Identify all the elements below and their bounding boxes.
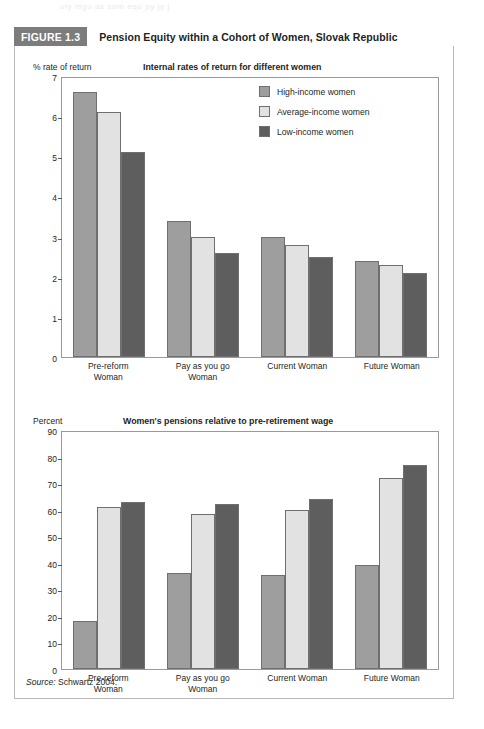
chart-1-ytick: 10	[27, 639, 62, 649]
bar-group	[62, 432, 156, 669]
chart-1-ytick: 20	[27, 613, 62, 623]
bar[interactable]	[121, 502, 145, 669]
figure-source: Source: Schwartz 2004.	[26, 677, 117, 687]
chart-1-ytick: 40	[27, 560, 62, 570]
chart-1-plot-area: 0102030405060708090	[61, 431, 439, 670]
x-axis-category-label: Pay as you goWoman	[156, 673, 251, 695]
chart-1-bar-groups	[62, 432, 438, 669]
bar-group	[250, 432, 344, 669]
chart-1-ytick: 80	[27, 454, 62, 464]
figure-header: FIGURE 1.3 Pension Equity within a Cohor…	[14, 27, 454, 46]
figure-body: % rate of return Internal rates of retur…	[14, 46, 454, 699]
bar[interactable]	[261, 575, 285, 669]
figure-number-tag: FIGURE 1.3	[14, 27, 87, 46]
chart-1-title: Women's pensions relative to pre-retirem…	[123, 416, 333, 426]
bar[interactable]	[403, 465, 427, 669]
bar[interactable]	[191, 514, 215, 669]
x-axis-category-label: Current Woman	[250, 673, 345, 695]
bar[interactable]	[355, 565, 379, 669]
chart-1-ytick: 70	[27, 480, 62, 490]
figure-title: Pension Equity within a Cohort of Women,…	[87, 27, 397, 46]
bar[interactable]	[379, 478, 403, 669]
bar[interactable]	[167, 573, 191, 669]
bar[interactable]	[215, 504, 239, 669]
bar[interactable]	[97, 507, 121, 669]
bar[interactable]	[73, 621, 97, 669]
chart-1-ytick: 90	[27, 427, 62, 437]
figure-container: FIGURE 1.3 Pension Equity within a Cohor…	[14, 27, 454, 699]
bar[interactable]	[309, 499, 333, 669]
source-value: Schwartz 2004.	[56, 677, 118, 687]
chart-1-ytick: 50	[27, 533, 62, 543]
x-axis-category-label: Future Woman	[345, 673, 440, 695]
bar-group	[344, 432, 438, 669]
chart-panel-pensions-relative: Percent Women's pensions relative to pre…	[15, 46, 453, 699]
chart-1-ytick: 0	[27, 666, 62, 676]
chart-1-y-axis-label: Percent	[33, 416, 62, 426]
bar[interactable]	[285, 510, 309, 669]
chart-1-ytick: 60	[27, 507, 62, 517]
bar-group	[156, 432, 250, 669]
source-label: Source:	[26, 677, 56, 687]
chart-1-x-axis-labels: Pre-reformWomanPay as you goWomanCurrent…	[61, 673, 439, 695]
chart-1-ytick: 30	[27, 586, 62, 596]
page-ghost-header: uly mgu as sum equ py jy j	[60, 2, 320, 11]
